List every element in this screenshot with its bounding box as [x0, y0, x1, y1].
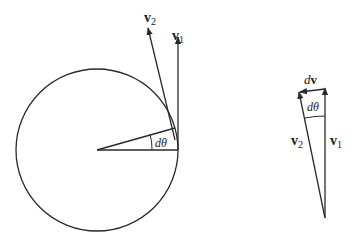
triangle-angle-label: dθ: [307, 100, 319, 114]
velocity-triangle-figure: dv dθ v2 v1: [291, 72, 342, 218]
triangle-angle-arc: [305, 116, 325, 118]
angle-arc: [150, 134, 152, 150]
velocity-diagram: dθ v2 v1 dv dθ v2 v1: [0, 0, 354, 244]
dv-label: dv: [304, 72, 318, 87]
circular-motion-figure: dθ v2 v1: [16, 10, 184, 231]
triangle-dv: [300, 89, 325, 92]
v2-vector: [148, 28, 175, 140]
v2-label: v2: [144, 10, 156, 27]
triangle-v2-label: v2: [291, 133, 303, 150]
triangle-v1-label: v1: [330, 133, 342, 150]
angle-label: dθ: [155, 136, 167, 150]
v1-label: v1: [172, 28, 184, 45]
